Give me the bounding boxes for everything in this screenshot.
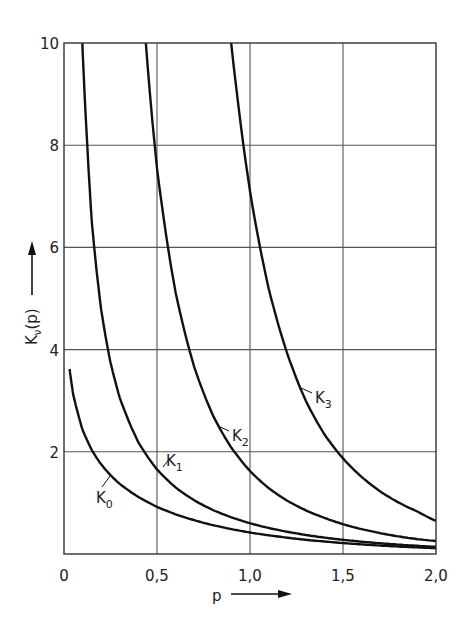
svg-text:Kν(p): Kν(p) xyxy=(23,308,43,345)
curve-label-K3: K3 xyxy=(315,389,332,411)
x-axis-label: p xyxy=(212,587,292,605)
grid xyxy=(64,43,436,554)
leader-line-K0 xyxy=(102,476,110,487)
curve-K3 xyxy=(70,3,436,521)
x-axis-arrow-icon xyxy=(278,590,292,598)
y-axis-arrow-icon xyxy=(28,241,36,255)
x-tick-label: 2,0 xyxy=(424,567,448,585)
y-axis-label: Kν(p) xyxy=(23,241,43,345)
x-axis-label-text: p xyxy=(212,587,222,605)
y-tick-label: 6 xyxy=(49,239,59,257)
curve-label-K1: K1 xyxy=(166,452,183,474)
curves xyxy=(70,3,436,548)
x-tick-label: 0 xyxy=(59,567,69,585)
curve-label-K0: K0 xyxy=(96,489,113,511)
curve-K1 xyxy=(70,3,436,547)
curve-label-K2: K2 xyxy=(232,427,249,449)
y-axis-label-arg: (p) xyxy=(23,308,41,329)
curve-K0 xyxy=(70,369,436,548)
y-tick-label: 4 xyxy=(49,342,59,360)
x-tick-label: 1,0 xyxy=(238,567,262,585)
x-tick-label: 1,5 xyxy=(331,567,355,585)
y-tick-label: 2 xyxy=(49,444,59,462)
x-tick-labels: 00,51,01,52,0 xyxy=(59,567,448,585)
y-tick-labels: 246810 xyxy=(40,35,59,462)
x-tick-label: 0,5 xyxy=(145,567,169,585)
y-tick-label: 10 xyxy=(40,35,59,53)
y-tick-label: 8 xyxy=(49,137,59,155)
bessel-chart: 00,51,01,52,0 246810 K0K1K2K3 p Kν(p) xyxy=(0,0,467,634)
curve-K2 xyxy=(70,3,436,541)
